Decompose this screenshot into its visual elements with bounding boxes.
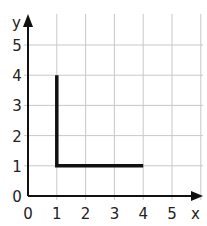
y-tick-label: 1 bbox=[12, 158, 22, 176]
x-tick-label: 2 bbox=[81, 205, 91, 223]
series-line bbox=[57, 75, 143, 166]
y-tick-label: 2 bbox=[12, 128, 22, 146]
y-axis-label: y bbox=[12, 14, 21, 32]
coordinate-plane: 012345012345 x y bbox=[0, 0, 207, 226]
data-series bbox=[57, 75, 143, 166]
y-tick-label: 0 bbox=[12, 188, 22, 206]
x-tick-label: 1 bbox=[52, 205, 62, 223]
x-tick-label: 0 bbox=[23, 205, 33, 223]
axes bbox=[23, 14, 203, 201]
y-tick-label: 4 bbox=[12, 67, 22, 85]
x-tick-label: 3 bbox=[110, 205, 120, 223]
x-tick-label: 4 bbox=[138, 205, 148, 223]
y-tick-label: 5 bbox=[12, 37, 22, 55]
grid bbox=[24, 14, 203, 200]
y-axis-arrow-icon bbox=[23, 14, 33, 27]
x-axis-label: x bbox=[191, 205, 200, 223]
y-tick-label: 3 bbox=[12, 97, 22, 115]
x-tick-label: 5 bbox=[167, 205, 177, 223]
